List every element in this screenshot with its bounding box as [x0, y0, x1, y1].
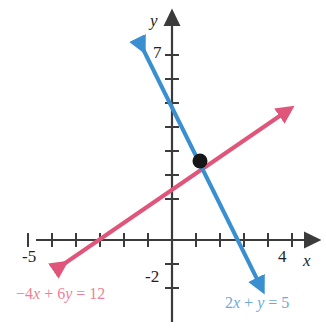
y-axis — [165, 24, 179, 322]
blue-eq-plus: + — [240, 294, 257, 311]
x-axis-label: x — [303, 252, 311, 269]
pink-eq-plus: + 6 — [40, 285, 65, 302]
pink-eq-rhs: = 12 — [72, 285, 105, 302]
pink-eq-lead: −4 — [16, 285, 33, 302]
blue-eq-lead: 2 — [225, 294, 233, 311]
blue-eq-rhs: = 5 — [264, 294, 289, 311]
coordinate-graph: y x 7 -2 -5 4 −4x + 6y = 12 2x + y = 5 — [0, 0, 326, 330]
y-tick-label-7: 7 — [153, 44, 162, 61]
blue-line-equation-label: 2x + y = 5 — [225, 295, 289, 311]
graph-canvas — [0, 0, 326, 330]
pink-line-equation-label: −4x + 6y = 12 — [16, 286, 105, 302]
y-axis-label: y — [150, 12, 158, 29]
x-axis — [28, 233, 306, 247]
y-tick-label-neg2: -2 — [145, 268, 159, 285]
x-tick-label-neg5: -5 — [22, 248, 36, 265]
solution-point — [193, 154, 208, 169]
x-tick-label-4: 4 — [278, 248, 287, 265]
